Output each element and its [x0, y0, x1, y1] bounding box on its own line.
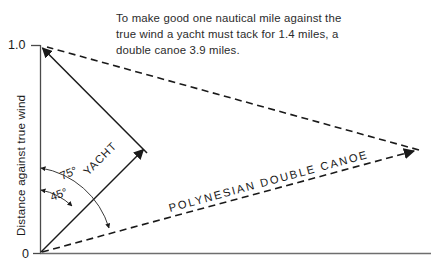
caption-line-2: true wind a yacht must tack for 1.4 mile…	[116, 28, 339, 40]
canoe-label: POLYNESIAN DOUBLE CANOE	[167, 148, 369, 214]
canoe-leg-return	[47, 47, 419, 150]
y-axis-title: Distance against true wind	[14, 95, 27, 236]
axes-group: 1.0 0 Distance against true wind	[8, 38, 431, 261]
caption-line-1: To make good one nautical mile against t…	[116, 12, 341, 24]
caption-line-3: double canoe 3.9 miles.	[116, 44, 240, 56]
angle-label-45: 45°	[49, 186, 69, 203]
figure-canvas: To make good one nautical mile against t…	[0, 0, 437, 271]
y-tick-label-top: 1.0	[8, 38, 25, 52]
caption-block: To make good one nautical mile against t…	[116, 12, 341, 56]
yacht-label: YACHT	[81, 140, 119, 178]
angle-label-75: 75°	[58, 164, 79, 182]
y-tick-label-bottom: 0	[22, 247, 29, 261]
yacht-track: YACHT	[41, 48, 147, 252]
tacking-diagram: To make good one nautical mile against t…	[0, 0, 437, 271]
canoe-track: POLYNESIAN DOUBLE CANOE	[42, 47, 419, 252]
yacht-leg-return	[43, 48, 148, 153]
